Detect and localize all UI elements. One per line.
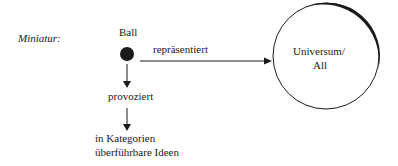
- ball-dot: [120, 47, 134, 61]
- miniatur-label: Miniatur:: [18, 32, 61, 45]
- ball-label: Ball: [119, 26, 137, 39]
- universe-label-line2: All: [313, 59, 327, 72]
- result-label-line1: in Kategorien: [95, 132, 155, 145]
- result-label-line2: überführbare Ideen: [95, 146, 179, 159]
- provokes-label: provoziert: [108, 90, 153, 103]
- diagram-canvas: [0, 0, 398, 166]
- universe-label-line1: Universum/: [293, 45, 345, 58]
- represents-label: repräsentiert: [153, 43, 208, 56]
- arrow-down-result: [123, 108, 131, 131]
- arrow-represents: [140, 58, 272, 65]
- arrow-down-provokes: [123, 64, 131, 88]
